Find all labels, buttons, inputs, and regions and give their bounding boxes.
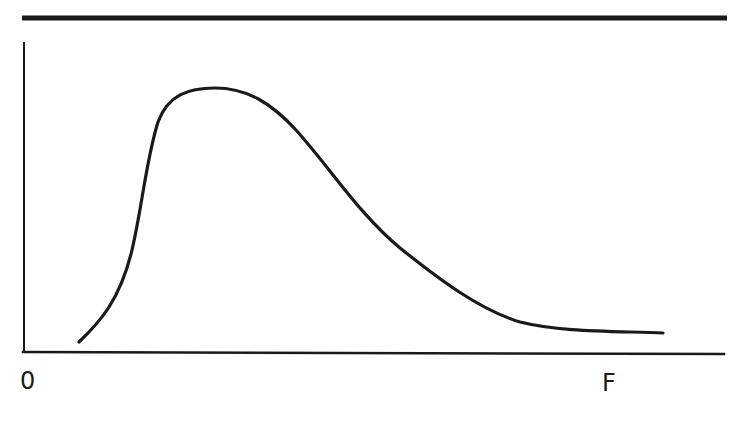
x-tick-label-f: F xyxy=(602,371,616,395)
x-axis xyxy=(23,352,724,354)
distribution-curve xyxy=(79,88,663,342)
chart-figure xyxy=(0,0,740,421)
x-tick-label-origin: 0 xyxy=(20,369,35,393)
